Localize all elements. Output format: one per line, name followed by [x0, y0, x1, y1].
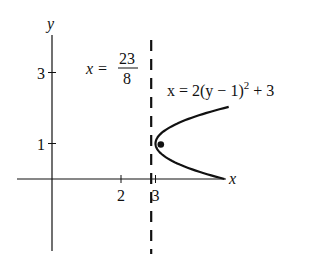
y-ticks: 13 [37, 65, 56, 153]
directrix-label: x = 23 8 [85, 50, 138, 87]
y-axis-label: y [45, 15, 55, 33]
parabola-curve [156, 107, 229, 179]
directrix-denominator: 8 [123, 70, 131, 87]
y-tick-label: 3 [37, 65, 45, 82]
x-tick-label: 3 [152, 187, 160, 204]
x-axis-label: x [228, 170, 236, 187]
directrix-numerator: 23 [119, 50, 135, 67]
parabola-diagram: x y 13 23 x = 23 8 x = 2(y − 1)2 + 3 [0, 0, 327, 265]
focus-point [158, 141, 165, 148]
svg-text:x =: x = [85, 60, 108, 77]
y-tick-label: 1 [37, 136, 45, 153]
x-tick-label: 2 [117, 187, 125, 204]
parabola-equation: x = 2(y − 1)2 + 3 [167, 79, 274, 100]
